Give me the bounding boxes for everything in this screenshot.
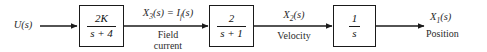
signal-x1-rest: (s) [440, 11, 451, 22]
signal-x2-label: X2(s) [258, 9, 330, 23]
block-3-fraction: 1 s [349, 13, 361, 39]
block-1-numerator: 2K [87, 13, 116, 25]
transfer-function-block-1[interactable]: 2K s + 4 [79, 5, 124, 47]
transfer-function-block-2[interactable]: 2 s + 1 [209, 5, 254, 47]
transfer-function-block-3[interactable]: 1 s [333, 5, 376, 47]
block-3-numerator: 1 [349, 13, 361, 25]
input-signal-label: U(s) [6, 19, 40, 30]
signal-x1-label: X1(s) [430, 11, 482, 25]
signal-x3-rest2: (s) [182, 7, 193, 18]
block-1-denominator: s + 4 [87, 28, 116, 40]
signal-x3-description-line1: Field [129, 29, 207, 40]
signal-x3-rest: (s) = I [153, 7, 180, 18]
block-2-fraction: 2 s + 1 [217, 13, 246, 39]
block-2-numerator: 2 [217, 13, 246, 25]
signal-x2-rest: (s) [294, 9, 305, 20]
signal-x1-description-line1: Position [426, 28, 484, 39]
block-3-denominator: s [349, 28, 361, 40]
block-1-fraction: 2K s + 4 [87, 13, 116, 39]
signal-x2-description-line1: Velocity [258, 30, 330, 41]
signal-x3-label: X3(s) = If(s) [129, 7, 207, 21]
block-diagram: U(s) 2K s + 4 X3(s) = If(s) Field curren… [0, 0, 487, 52]
block-2-denominator: s + 1 [217, 28, 246, 40]
signal-x3-description-line2: current [129, 40, 207, 51]
